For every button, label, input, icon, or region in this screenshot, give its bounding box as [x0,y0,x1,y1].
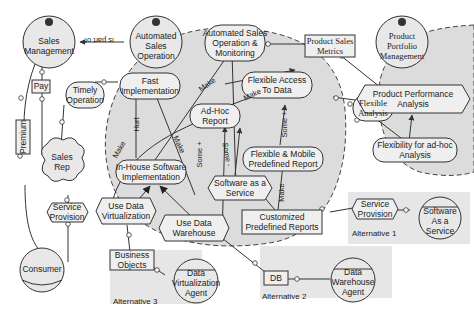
db-label: DB [270,273,282,283]
automated-sales-op-monitoring-label: Automated Sales Operation & Monitoring [203,28,268,58]
fast-implementation-label: Fast Implementation [121,76,179,96]
premium-label: Premium [18,120,28,154]
use-data-virtualization-label: Use Data Virtualization [102,201,151,221]
product-portfolio-management-label: Product Portfolio Management [380,31,424,61]
sales-management-label: Sales Management [24,36,74,56]
use-data-warehouse-label: Use Data Warehouse [172,218,215,238]
service-provision-alt1-label: Service Provision [358,199,393,219]
hurt-label: Hurt [132,117,141,131]
alternative-1-label: Alternative 1 [352,229,396,238]
timely-operation-label: Timely Operation [66,85,103,105]
automated-sales-operation-label: Automated Sales Operation [135,31,176,61]
product-performance-label: Product Performance Analysis [373,89,453,109]
is-part-of-label: is part of [85,36,114,45]
product-sales-metrics-label: Product Sales Metrics [307,36,354,56]
alternative-2-label: Alternative 2 [262,292,306,301]
alternative-3-label: Alternative 3 [113,297,157,306]
ad-hoc-report-label: Ad-Hoc Report [201,106,229,126]
saas-agent-label: Software As a Service [423,206,457,236]
in-house-label: In-House Software Implementation [116,162,186,182]
some-plus-label-1: Some + [195,141,204,167]
software-as-a-service-label: Software as a Service [214,178,266,198]
customized-reports-label: Customized Predefined Reports [245,212,318,232]
service-provision-left-label: Service Provision [50,202,85,222]
make-label-5: Make [277,183,286,201]
sales-rep-label: Sales Rep [51,152,72,172]
some-plus-label-2: Some + [280,111,289,137]
flexible-mobile-label: Flexible & Mobile Predefined Report [249,149,318,169]
business-objects-label: Business Objects [115,250,150,270]
data-virtualization-agent-label: Data Virtualization Agent [172,268,221,298]
flexibility-ad-hoc-label: Flexibility for ad-hoc Analysis [377,140,453,160]
data-warehouse-agent-label: Data Warehouse Agent [331,267,374,297]
consumer-label: Consumer [22,264,61,274]
pay-label: Pay [34,81,49,91]
